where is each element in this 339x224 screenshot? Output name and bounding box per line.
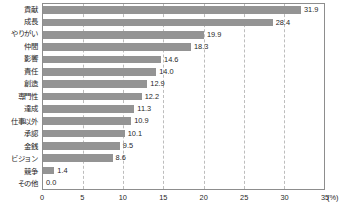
bar [43, 43, 191, 51]
bar-value-label: 9.5 [123, 142, 133, 149]
category-label: 仕事以外 [0, 115, 42, 127]
bar-row: 11.3 [43, 103, 324, 115]
horizontal-bar-chart: 貢献成長やりがい仲間影響責任創造専門性達成仕事以外承認金銭ビジョン競争その他 3… [0, 0, 339, 224]
bar-row: 1.4 [43, 164, 324, 176]
x-axis-unit-label: (%) [327, 194, 339, 201]
bar-value-label: 28.4 [276, 19, 290, 26]
bar [43, 167, 54, 175]
bar-value-label: 10.9 [134, 117, 148, 124]
bar [43, 19, 273, 27]
bar-row: 31.9 [43, 4, 324, 16]
bar-value-label: 19.9 [207, 31, 221, 38]
category-label: やりがい [0, 28, 42, 40]
category-label: 専門性 [0, 90, 42, 102]
category-label: 仲間 [0, 40, 42, 52]
category-label: 承認 [0, 128, 42, 140]
bar-value-label: 10.1 [128, 130, 142, 137]
x-tick-label: 15 [159, 194, 167, 201]
bar [43, 154, 113, 162]
x-axis: 05101520253035 [42, 190, 325, 212]
bar-row: 28.4 [43, 16, 324, 28]
bar [43, 31, 204, 39]
bars-layer: 31.928.419.918.314.614.012.912.211.310.9… [43, 4, 324, 189]
x-tick-label: 0 [40, 194, 44, 201]
bar [43, 68, 156, 76]
category-label: 責任 [0, 65, 42, 77]
category-axis: 貢献成長やりがい仲間影響責任創造専門性達成仕事以外承認金銭ビジョン競争その他 [0, 3, 42, 190]
x-tick-label: 20 [200, 194, 208, 201]
bar-value-label: 31.9 [304, 6, 318, 13]
category-label: 成長 [0, 15, 42, 27]
bar-row: 14.6 [43, 53, 324, 65]
plot-area: 31.928.419.918.314.614.012.912.211.310.9… [42, 3, 325, 190]
bar-row: 9.5 [43, 140, 324, 152]
x-tick-label: 30 [280, 194, 288, 201]
bar-row: 0.0 [43, 177, 324, 189]
bar-row: 19.9 [43, 29, 324, 41]
bar-row: 10.1 [43, 127, 324, 139]
bar-row: 14.0 [43, 66, 324, 78]
category-label: 達成 [0, 103, 42, 115]
bar [43, 80, 147, 88]
category-label: ビジョン [0, 153, 42, 165]
bar [43, 56, 161, 64]
x-tick-label: 5 [80, 194, 84, 201]
bar-value-label: 8.6 [116, 154, 126, 161]
category-label: 競争 [0, 165, 42, 177]
x-tick-label: 10 [119, 194, 127, 201]
bar-row: 12.9 [43, 78, 324, 90]
bar-value-label: 18.3 [194, 43, 208, 50]
bar-value-label: 12.2 [145, 93, 159, 100]
bar-value-label: 12.9 [150, 80, 164, 87]
bar [43, 93, 142, 101]
bar-value-label: 14.6 [164, 56, 178, 63]
bar [43, 117, 131, 125]
category-label: 貢献 [0, 3, 42, 15]
bar-row: 10.9 [43, 115, 324, 127]
bar [43, 142, 120, 150]
category-label: 金銭 [0, 140, 42, 152]
bar-value-label: 14.0 [159, 68, 173, 75]
bar-value-label: 11.3 [137, 105, 151, 112]
bar-row: 8.6 [43, 152, 324, 164]
bar-row: 12.2 [43, 90, 324, 102]
category-label: 創造 [0, 78, 42, 90]
bar-row: 18.3 [43, 41, 324, 53]
bar-value-label: 0.0 [46, 179, 56, 186]
bar [43, 6, 301, 14]
bar [43, 105, 134, 113]
bar-value-label: 1.4 [57, 167, 67, 174]
x-tick-label: 25 [240, 194, 248, 201]
category-label: 影響 [0, 53, 42, 65]
bar [43, 130, 125, 138]
category-label: その他 [0, 178, 42, 190]
